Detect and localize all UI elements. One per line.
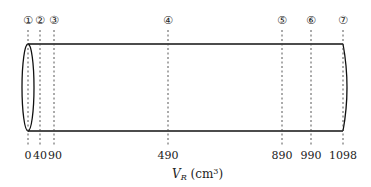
marker-value-6: 990 — [301, 149, 322, 162]
marker-value-4: 490 — [158, 149, 179, 162]
marker-lines — [28, 30, 343, 145]
marker-id-4: ④ — [163, 14, 173, 27]
cylinder-right-end — [343, 44, 347, 131]
marker-id-3: ③ — [49, 14, 59, 27]
marker-value-3: 90 — [48, 149, 62, 162]
marker-value-2: 40 — [33, 149, 47, 162]
marker-id-2: ② — [35, 14, 45, 27]
marker-value-1: 0 — [25, 149, 32, 162]
marker-value-7: 1098 — [329, 149, 357, 162]
marker-id-6: ⑥ — [306, 14, 316, 27]
cylinder-diagram: ① ② ③ ④ ⑤ ⑥ ⑦ 0 40 90 490 890 990 1098 V… — [0, 0, 371, 187]
marker-value-5: 890 — [272, 149, 293, 162]
axis-label: VR (cm3) — [172, 167, 223, 182]
marker-id-7: ⑦ — [338, 14, 348, 27]
marker-id-5: ⑤ — [277, 14, 287, 27]
marker-id-1: ① — [23, 14, 33, 27]
